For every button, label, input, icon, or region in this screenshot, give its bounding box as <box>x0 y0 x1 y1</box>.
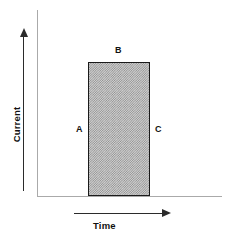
annotation-label-a: A <box>76 124 83 134</box>
y-axis-line <box>37 10 38 197</box>
time-axis-arrow-icon <box>74 209 171 218</box>
pulse-diagram-figure: Current Time A B C <box>0 0 229 244</box>
annotation-label-c: C <box>155 124 162 134</box>
x-axis-title: Time <box>93 220 116 231</box>
x-axis-line <box>37 196 222 197</box>
arrow-shaft <box>23 34 24 191</box>
current-pulse-rectangle <box>88 62 150 196</box>
y-axis-title: Current <box>11 95 22 155</box>
arrow-shaft <box>74 213 164 214</box>
annotation-label-b: B <box>115 45 122 55</box>
arrow-head-right-icon <box>162 209 171 217</box>
